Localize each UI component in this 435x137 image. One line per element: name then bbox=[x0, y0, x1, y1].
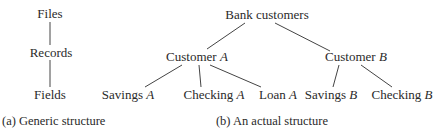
customer-b-label: Customer bbox=[325, 49, 379, 64]
caption-a: (a) Generic structure bbox=[2, 114, 105, 128]
node-savings-a: Savings A bbox=[102, 88, 154, 102]
leaf-label: Savings bbox=[305, 87, 349, 102]
node-checking-b: Checking B bbox=[371, 88, 432, 102]
leaf-letter: A bbox=[289, 87, 297, 102]
node-records: Records bbox=[30, 46, 73, 60]
leaf-letter: A bbox=[146, 87, 154, 102]
edge-root-customer-b bbox=[275, 23, 330, 51]
node-customer-b: Customer B bbox=[325, 50, 387, 64]
edge-customer-b-checking-b bbox=[361, 65, 392, 87]
leaf-label: Checking bbox=[371, 87, 424, 102]
edge-root-customer-a bbox=[207, 23, 245, 49]
customer-a-label: Customer bbox=[166, 49, 220, 64]
leaf-letter: A bbox=[237, 87, 245, 102]
caption-b: (b) An actual structure bbox=[216, 114, 328, 128]
leaf-label: Loan bbox=[259, 87, 289, 102]
node-customer-a: Customer A bbox=[166, 50, 228, 64]
customer-b-letter: B bbox=[379, 49, 387, 64]
edge-customer-a-savings-a bbox=[145, 65, 182, 87]
node-checking-a: Checking A bbox=[183, 88, 244, 102]
node-files: Files bbox=[37, 7, 62, 21]
edge-customer-a-loan-a bbox=[210, 65, 261, 87]
node-fields: Fields bbox=[34, 88, 66, 102]
node-savings-b: Savings B bbox=[305, 88, 357, 102]
leaf-label: Checking bbox=[183, 87, 236, 102]
node-loan-a: Loan A bbox=[259, 88, 297, 102]
edge-customer-a-checking-a bbox=[199, 65, 201, 87]
leaf-letter: B bbox=[349, 87, 357, 102]
customer-a-letter: A bbox=[220, 49, 228, 64]
edge-customer-b-savings-b bbox=[333, 65, 339, 87]
node-bank-customers: Bank customers bbox=[225, 8, 308, 22]
leaf-label: Savings bbox=[102, 87, 146, 102]
leaf-letter: B bbox=[425, 87, 433, 102]
